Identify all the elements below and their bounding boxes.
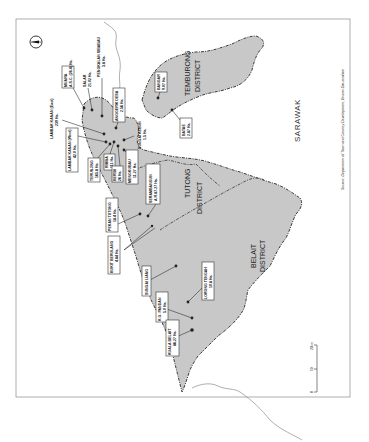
svg-text:4.84 Ha.: 4.84 Ha. xyxy=(115,248,119,262)
svg-text:PENGKALAN SIBABAU: PENGKALAN SIBABAU xyxy=(97,36,101,77)
svg-text:RIMBA: RIMBA xyxy=(105,156,109,168)
tutong-district-label: TUTONG xyxy=(184,169,191,198)
scale-tick-10: 10 xyxy=(310,367,314,371)
scale-tick-0: 0 xyxy=(310,391,314,393)
svg-text:2.87 Ha.: 2.87 Ha. xyxy=(187,122,191,136)
svg-text:K.G. PANDAN: K.G. PANDAN xyxy=(158,297,162,321)
temburong-district-suffix: DISTRICT xyxy=(194,59,201,92)
svg-text:BUKIT BERULANG: BUKIT BERULANG xyxy=(110,240,114,273)
svg-text:9.07 Ha.: 9.07 Ha. xyxy=(162,76,166,90)
site-batae: BATAE 2.87 Ha. xyxy=(171,109,192,138)
belait-district-suffix: DISTRICT xyxy=(259,239,266,272)
svg-text:18.4 Ha.: 18.4 Ha. xyxy=(113,208,117,222)
svg-text:10.8 Ha.: 10.8 Ha. xyxy=(209,274,213,288)
north-arrow-icon xyxy=(30,36,42,48)
svg-text:26 Ha.: 26 Ha. xyxy=(118,170,122,181)
svg-text:5.0 Ha.: 5.0 Ha. xyxy=(163,301,167,313)
svg-text:2.56 Ha.: 2.56 Ha. xyxy=(120,98,124,112)
svg-text:239 Ha.: 239 Ha. xyxy=(55,113,59,126)
sarawak-label: SARAWAK xyxy=(293,99,302,142)
svg-text:21.02 Ha.: 21.02 Ha. xyxy=(88,71,92,87)
svg-text:A.S.C. (26.4) Ha.: A.S.C. (26.4) Ha. xyxy=(69,59,73,87)
svg-text:SUNGAI KEBUN: SUNGAI KEBUN xyxy=(138,121,142,149)
tutong-district-suffix: DISTRICT xyxy=(196,181,203,214)
svg-text:1.5 Ha.: 1.5 Ha. xyxy=(143,128,147,140)
brunei-aquaculture-map: TEMBURONG DISTRICT TUTONG DISTRICT BELAI… xyxy=(0,0,369,442)
site-muara: MUARA A.S.C. (26.4) Ha. xyxy=(62,59,85,109)
svg-text:LAMBAK KANAN (West): LAMBAK KANAN (West) xyxy=(68,129,72,171)
svg-text:SALAR: SALAR xyxy=(83,74,87,87)
scale-tick-20: 20km xyxy=(310,342,314,350)
svg-text:42.0 Ha.: 42.0 Ha. xyxy=(73,144,77,158)
svg-text:BERIBI: BERIBI xyxy=(113,169,117,181)
svg-text:SERAMBANGUN: SERAMBANGUN xyxy=(149,174,153,203)
svg-text:MUARA: MUARA xyxy=(64,73,68,87)
svg-text:A.R.87.27 Ha.: A.R.87.27 Ha. xyxy=(154,178,158,201)
svg-text:BATAE: BATAE xyxy=(182,124,186,136)
svg-text:86.27 Ha.: 86.27 Ha. xyxy=(173,330,177,346)
svg-text:TERUNJING: TERUNJING xyxy=(90,160,94,181)
svg-text:11.27 Ha.: 11.27 Ha. xyxy=(133,163,137,178)
source-caption: Source: Department of Town and Country D… xyxy=(341,69,345,190)
svg-text:ANGGERIK DESA: ANGGERIK DESA xyxy=(115,90,119,121)
belait-district-label: BELAIT xyxy=(250,243,257,268)
coastline-south xyxy=(192,384,302,440)
svg-text:SUNGAI LIANG: SUNGAI LIANG xyxy=(145,269,149,295)
svg-text:PEKAN TUTONG: PEKAN TUTONG xyxy=(108,202,112,231)
svg-text:165.8 Ha.: 165.8 Ha. xyxy=(95,162,99,178)
svg-text:BANGAR: BANGAR xyxy=(157,74,161,90)
svg-text:KUALA BELAIT: KUALA BELAIT xyxy=(168,328,172,355)
svg-text:LAMBAK KANAN (East): LAMBAK KANAN (East) xyxy=(50,98,54,139)
svg-text:LORONG TENGAH: LORONG TENGAH xyxy=(204,267,208,299)
svg-text:MENGKUBAU: MENGKUBAU xyxy=(128,159,132,183)
svg-text:3.8 Ha.: 3.8 Ha. xyxy=(102,55,106,67)
temburong-district-label: TEMBURONG xyxy=(184,51,191,97)
scale-bar: 0 10 20km xyxy=(310,342,317,393)
